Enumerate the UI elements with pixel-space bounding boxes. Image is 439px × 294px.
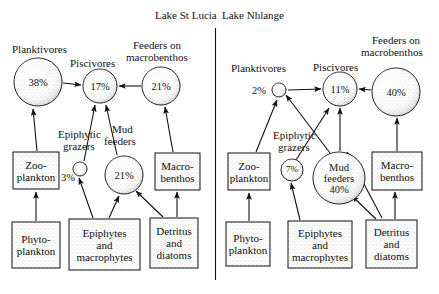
boxlabel-phytoplankton-right: Phyto- plankton [226, 222, 270, 266]
boxlabel-zooplankton-right: Zoo- plankton [228, 153, 270, 190]
label-feeders-on-right-line2: macrobenthos [361, 47, 423, 59]
detritus-line2: and [166, 237, 182, 249]
label-feeders-on-left-line1: Feeders on [133, 40, 181, 52]
label-epiphytic-left-line2: grazers [63, 141, 95, 153]
detritus-right-line3: diatoms [374, 250, 409, 262]
boxlabel-macrobenthos-right: Macro- benthos [372, 152, 422, 190]
circle-feeders-macrobenthos-left [142, 67, 180, 105]
label-planktivores-right: Planktivores [231, 63, 286, 75]
label-mud-feeders-left-line2: feeders [104, 136, 136, 148]
label-feeders-on-right-line1: Feeders on [372, 35, 420, 47]
epiphytes-line1: Epiphytes [83, 227, 127, 239]
macrobenthos-right-line2: benthos [380, 171, 414, 183]
epiphytes-right-line1: Epiphytes [298, 227, 342, 239]
label-epiphytic-right-line1: Epiphytic [273, 130, 316, 142]
zooplankton-right-line2: plankton [230, 172, 269, 184]
epiphytes-right-line2: and [312, 239, 328, 251]
detritus-line3: diatoms [157, 249, 192, 261]
boxlabel-zooplankton-left: Zoo- plankton [13, 152, 59, 189]
phytoplankton-line2: plankton [17, 245, 56, 257]
boxlabel-detritus-right: Detritus and diatoms [366, 220, 417, 268]
food-web-figure: Lake St Lucia Lake Nhlange Planktivores … [0, 0, 439, 294]
circle-planktivores-right [272, 83, 286, 97]
panel-title-left: Lake St Lucia [155, 10, 217, 22]
label-piscivores-right: Piscivores [313, 62, 358, 74]
phytoplankton-right-line2: plankton [229, 244, 268, 256]
panel-title-right: Lake Nhlange [222, 10, 284, 22]
circle-epiphytic-grazers-right [281, 159, 303, 181]
boxlabel-detritus-left: Detritus and diatoms [150, 218, 198, 268]
circle-mud-feeders-right [313, 152, 365, 204]
circle-piscivores-left [83, 69, 117, 103]
phytoplankton-right-line1: Phyto- [233, 232, 262, 244]
label-epiphytic-left-line1: Epiphytic [58, 129, 101, 141]
boxlabel-phytoplankton-left: Phyto- plankton [12, 222, 60, 268]
zooplankton-line2: plankton [17, 171, 56, 183]
epiphytes-right-line3: macrophytes [292, 251, 348, 263]
label-feeders-on-left-line2: macrobenthos [126, 52, 188, 64]
zooplankton-right-line1: Zoo- [238, 160, 259, 172]
circle-epiphytic-grazers-left [73, 162, 87, 176]
zooplankton-line1: Zoo- [25, 159, 46, 171]
detritus-right-line1: Detritus [374, 226, 409, 238]
label-planktivores-left: Planktivores [12, 44, 67, 56]
boxlabel-epiphytes-right: Epiphytes and macrophytes [286, 221, 354, 268]
epiphytes-line2: and [97, 239, 113, 251]
detritus-line1: Detritus [156, 225, 191, 237]
macrobenthos-line1: Macro- [161, 160, 193, 172]
boxlabel-macrobenthos-left: Macro- benthos [155, 153, 200, 190]
label-piscivores-left: Piscivores [70, 58, 115, 70]
phytoplankton-line1: Phyto- [21, 233, 50, 245]
label-epiphytic-right-line2: grazers [278, 142, 310, 154]
circle-mud-feeders-left [105, 156, 143, 194]
macrobenthos-right-line1: Macro- [381, 159, 413, 171]
boxlabel-epiphytes-left: Epiphytes and macrophytes [69, 219, 140, 270]
detritus-right-line2: and [384, 238, 400, 250]
epiphytes-line3: macrophytes [76, 251, 132, 263]
circle-planktivores-left [14, 58, 62, 106]
circle-piscivores-right [323, 72, 357, 106]
label-mud-feeders-left-line1: Mud [112, 124, 133, 136]
macrobenthos-line2: benthos [160, 172, 194, 184]
circle-feeders-macrobenthos-right [372, 68, 420, 116]
